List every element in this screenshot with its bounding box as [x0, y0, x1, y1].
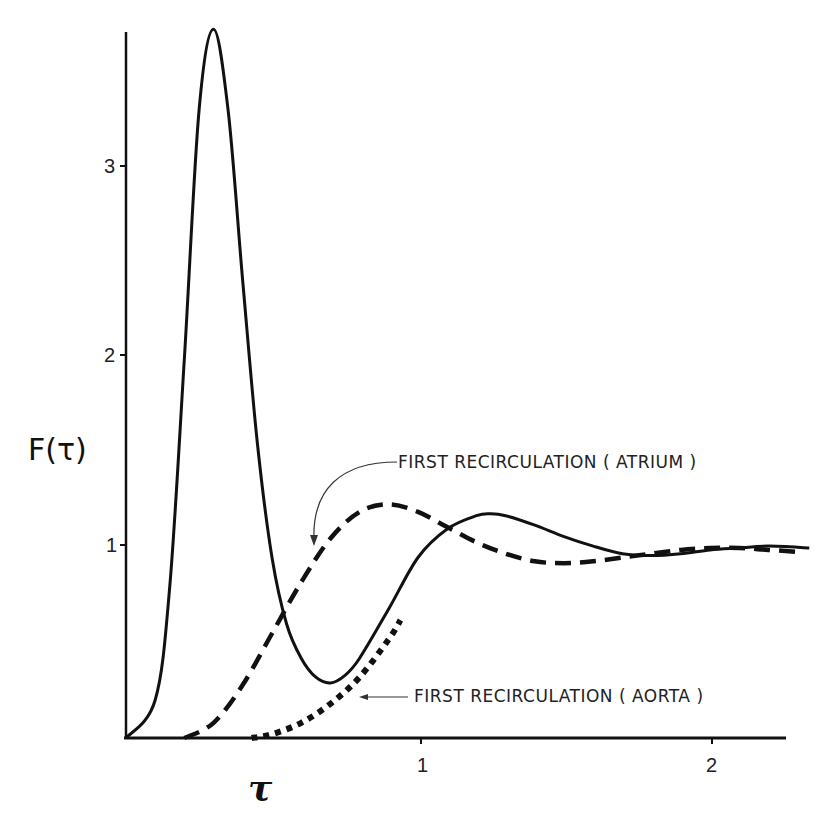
aorta-arrowhead-icon [359, 694, 368, 700]
x-axis-label: τ [248, 766, 272, 808]
y-tick-label-2: 2 [104, 344, 115, 367]
annotation-aorta: FIRST RECIRCULATION ( AORTA ) [414, 686, 704, 706]
x-tick-label-2: 2 [706, 754, 717, 777]
y-tick-label-1: 1 [106, 534, 117, 557]
atrium-leader-line [314, 462, 397, 540]
x-tick-label-1: 1 [417, 754, 428, 777]
series-layer [126, 29, 809, 738]
y-axis-label: F(τ) [28, 432, 87, 467]
series-dotted-line [252, 620, 401, 738]
y-tick-label-3: 3 [104, 155, 115, 178]
annotation-atrium: FIRST RECIRCULATION ( ATRIUM ) [398, 452, 697, 472]
series-solid-line [126, 29, 809, 738]
atrium-arrowhead-icon [310, 535, 318, 546]
